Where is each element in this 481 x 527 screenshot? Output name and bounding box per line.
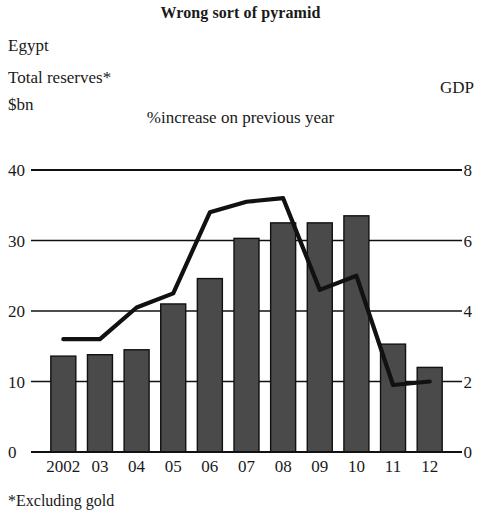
- left-axis-tick-30: 30: [8, 232, 25, 249]
- chart-plot-area: [0, 0, 481, 527]
- right-axis-tick-0: 0: [464, 444, 473, 461]
- x-axis-tick-10: 10: [348, 458, 365, 475]
- right-axis-tick-8: 8: [464, 162, 473, 179]
- left-axis-tick-10: 10: [8, 373, 25, 390]
- x-axis-tick-03: 03: [91, 458, 108, 475]
- x-axis-tick-04: 04: [128, 458, 145, 475]
- left-axis-tick-20: 20: [8, 303, 25, 320]
- right-axis-tick-4: 4: [464, 303, 473, 320]
- x-axis-tick-07: 07: [238, 458, 255, 475]
- x-axis-tick-08: 08: [275, 458, 292, 475]
- right-axis-tick-6: 6: [464, 232, 473, 249]
- right-axis-tick-2: 2: [464, 373, 473, 390]
- left-axis-tick-0: 0: [8, 444, 17, 461]
- chart-container: Wrong sort of pyramid Egypt Total reserv…: [0, 0, 481, 527]
- x-axis-tick-12: 12: [421, 458, 438, 475]
- x-axis-tick-2002: 2002: [46, 458, 80, 475]
- left-axis-tick-40: 40: [8, 162, 25, 179]
- x-axis-tick-11: 11: [385, 458, 401, 475]
- bar-series: [51, 216, 442, 452]
- footnote: *Excluding gold: [8, 492, 114, 510]
- x-axis-tick-09: 09: [311, 458, 328, 475]
- x-axis-tick-06: 06: [201, 458, 218, 475]
- x-axis-tick-05: 05: [165, 458, 182, 475]
